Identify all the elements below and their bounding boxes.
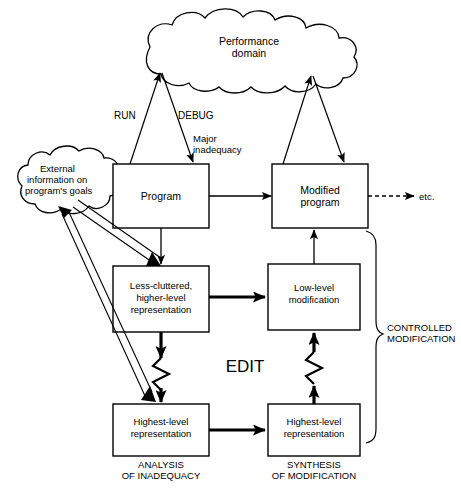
node-highest-level-left: Highest-level representation [113,404,209,456]
edge-label-major-inadequacy-line2: inadequacy [193,144,242,155]
flow-diagram: Performance domain External information … [0,0,461,489]
edge-modified-debug-arrow [313,76,344,162]
edge-label-etc: etc. [419,191,434,202]
performance-domain-label-line2: domain [232,47,267,59]
node-external-information: External information on program's goals [18,146,121,214]
node-program: Program [113,164,209,228]
low-level-modification-label-line1: Low-level [294,282,334,293]
double-arrow-head [141,386,156,402]
external-information-label-line1: External [40,163,75,174]
highest-level-left-label-line1: Highest-level [134,416,189,427]
external-information-label-line2: information on [27,174,87,185]
performance-domain-label-line1: Performance [219,35,279,47]
node-modified-program: Modified program [272,164,368,228]
annotation-controlled-line1: CONTROLLED [387,322,452,333]
annotation-analysis-line1: ANALYSIS [138,459,184,470]
highest-level-right-label-line1: Highest-level [287,416,342,427]
modified-program-label-line1: Modified [300,184,340,196]
low-level-modification-label-line2: modification [289,294,340,305]
less-cluttered-label-line1: Less-cluttered, [130,280,192,291]
program-label: Program [141,190,182,202]
external-information-label-line3: program's goals [25,185,93,196]
edge-label-major-inadequacy-line1: Major [193,133,217,144]
node-performance-domain: Performance domain [146,9,357,93]
controlled-modification-brace [366,231,383,443]
node-highest-level-right: Highest-level representation [268,404,360,456]
annotation-synthesis-line2: OF MODIFICATION [272,470,356,481]
less-cluttered-label-line3: representation [131,304,192,315]
highest-level-left-label-line2: representation [131,428,192,439]
zigzag-right-icon [306,352,322,384]
edge-label-debug: DEBUG [178,110,214,121]
modified-program-label-line2: program [300,196,339,208]
edge-less-cluttered-to-highest-left [153,332,169,402]
annotation-synthesis-line1: SYNTHESIS [287,459,341,470]
annotation-edit: EDIT [226,357,265,376]
edge-label-run: RUN [114,110,136,121]
node-less-cluttered: Less-cluttered, higher-level representat… [113,266,209,332]
diagram-canvas: Performance domain External information … [0,0,461,489]
highest-level-right-label-line2: representation [284,428,345,439]
annotation-analysis-line2: OF INADEQUACY [122,470,201,481]
edge-highest-right-to-lowlevel [306,333,322,404]
zigzag-left-icon [153,358,169,390]
less-cluttered-label-line2: higher-level [136,292,185,303]
node-low-level-modification: Low-level modification [268,264,360,330]
annotation-controlled-line2: MODIFICATION [387,333,456,344]
